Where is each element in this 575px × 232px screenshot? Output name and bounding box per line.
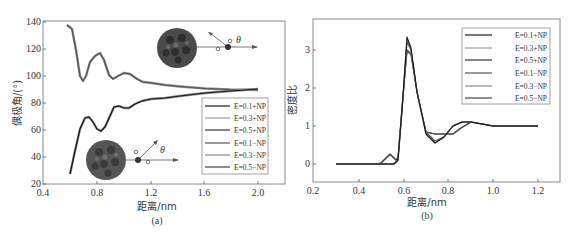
water-molecule-icon [135,157,141,163]
y-tick-label: 80 [31,97,41,108]
y-tick-label: 60 [31,124,41,135]
x-tick-label: 0.4 [37,187,50,198]
y-tick-label: 120 [26,43,41,54]
x-axis-label-b: 距离/nm [407,196,446,208]
y-tick-label: 40 [31,151,41,162]
legend-item: E=0.1−NP [234,139,266,148]
x-tick-label: 1.6 [198,187,211,198]
legend-item: E=0.1−NP [515,69,547,78]
x-tick-label: 1.0 [487,185,500,196]
legend-b: E=0.1+NP E=0.3+NP E=0.5+NP E=0.1−NP E=0.… [462,28,550,104]
nanoparticle-illustration-top: θ [157,28,258,68]
nanoparticle-illustration-bottom: θ [86,140,179,180]
figure: 140 120 100 80 60 40 20 0.4 0.8 1.2 1.6 … [0,0,575,232]
y-tick-label: 1 [305,120,310,131]
theta-label: θ [160,144,165,155]
water-molecule-icon [225,44,231,50]
x-axis-label-a: 距离/nm [137,200,176,212]
dipole-arrow [138,141,157,160]
panel-caption-b: (b) [421,210,433,222]
x-tick-label: 1.2 [532,185,545,196]
x-tick-label: 2.0 [252,187,265,198]
legend-item: E=0.1+NP [515,31,547,40]
y-tick-label: 100 [26,70,41,81]
dipole-arrow [210,33,228,47]
legend-item: E=0.5+NP [234,126,266,135]
panel-b: 3 2 1 0 0.2 0.4 0.6 0.8 1.0 1.2 距离/nm (b… [286,19,560,222]
y-tick-label: 2 [305,82,310,93]
x-tick-label: 0.8 [91,187,104,198]
y-tick-label: 140 [26,16,41,27]
y-axis-label-a: 偶极角/(°) [11,80,23,126]
panel-caption-a: (a) [151,215,162,227]
x-tick-label: 0.6 [398,185,411,196]
x-tick-label: 0.8 [442,185,455,196]
x-tick-label: 1.2 [145,187,158,198]
legend-item: E=0.3+NP [234,114,266,123]
y-axis-label-b: 密度比 [286,85,298,115]
panel-a: 140 120 100 80 60 40 20 0.4 0.8 1.2 1.6 … [11,16,285,227]
x-tick-label: 0.2 [307,185,320,196]
y-tick-label: 0 [305,158,310,169]
theta-label: θ [236,34,241,45]
legend-a: E=0.1+NP E=0.3+NP E=0.5+NP E=0.1−NP E=0.… [202,98,268,174]
legend-item: E=0.3−NP [234,151,266,160]
legend-item: E=0.5−NP [234,163,266,172]
x-tick-label: 0.4 [353,185,366,196]
legend-item: E=0.3−NP [515,82,547,91]
legend-item: E=0.5−NP [515,94,547,103]
legend-item: E=0.1+NP [234,102,266,111]
legend-item: E=0.3+NP [515,44,547,53]
legend-item: E=0.5+NP [515,56,547,65]
y-tick-label: 3 [305,44,310,55]
